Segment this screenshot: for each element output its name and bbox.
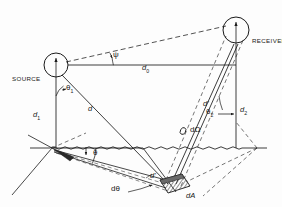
label-d-prime-lower: d' [150, 172, 156, 180]
label-d0-sub: 0 [146, 68, 149, 74]
receiver-label: RECEIVER [252, 38, 282, 44]
ray-bundle-dtheta [52, 148, 168, 191]
angle-theta2-indicator [218, 96, 234, 114]
label-psi: ψ [113, 51, 119, 59]
diagram-canvas [0, 0, 282, 207]
label-d-omega: dΩ [190, 126, 200, 134]
label-theta2-sub: 2 [210, 112, 213, 118]
source-label: SOURCE [12, 76, 41, 82]
label-d: d [88, 105, 92, 113]
label-dA: dA [186, 192, 195, 200]
receiver-circle [223, 17, 249, 43]
label-theta1-sub: 1 [70, 88, 73, 94]
angle-theta1-indicator [56, 86, 66, 96]
label-d0: d0 [142, 64, 149, 74]
label-theta1: θ1 [66, 84, 73, 94]
label-d2: d2 [240, 106, 247, 116]
dtheta-leader [128, 185, 152, 192]
label-theta: θ [93, 149, 97, 157]
label-d2-sub: 2 [244, 110, 247, 116]
label-d1-sub: 1 [37, 115, 40, 121]
label-d1: d1 [33, 111, 40, 121]
psi-slant-line [66, 26, 226, 62]
solid-angle-marker [179, 127, 187, 136]
source-circle [44, 53, 68, 77]
scattering-geometry-figure: SOURCE RECEIVER d0 d1 d2 d d' d' θ θ1 θ2… [0, 0, 282, 207]
incident-ray-d [62, 75, 168, 184]
label-d-theta: dθ [111, 185, 120, 193]
vertex-lower-left-extension [12, 133, 86, 195]
label-theta2: θ2 [206, 108, 213, 118]
scattered-ray-bundle [166, 36, 244, 186]
